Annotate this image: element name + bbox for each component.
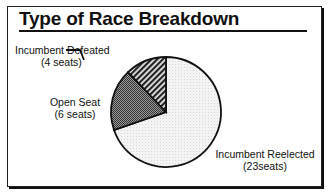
label-open-seat: Open Seat (6 seats) (45, 96, 105, 120)
label-detail: (4 seats) (15, 56, 145, 68)
label-detail: (23seats) (210, 160, 320, 172)
label-name: Incumbent Defeated (15, 44, 145, 56)
label-name: Open Seat (45, 96, 105, 108)
label-incumbent-defeated: Incumbent Defeated (4 seats) (15, 44, 145, 68)
label-incumbent-reelected: Incumbent Reelected (23seats) (210, 148, 320, 172)
label-name: Incumbent Reelected (210, 148, 320, 160)
label-detail: (6 seats) (45, 108, 105, 120)
pie-slices (111, 57, 221, 167)
